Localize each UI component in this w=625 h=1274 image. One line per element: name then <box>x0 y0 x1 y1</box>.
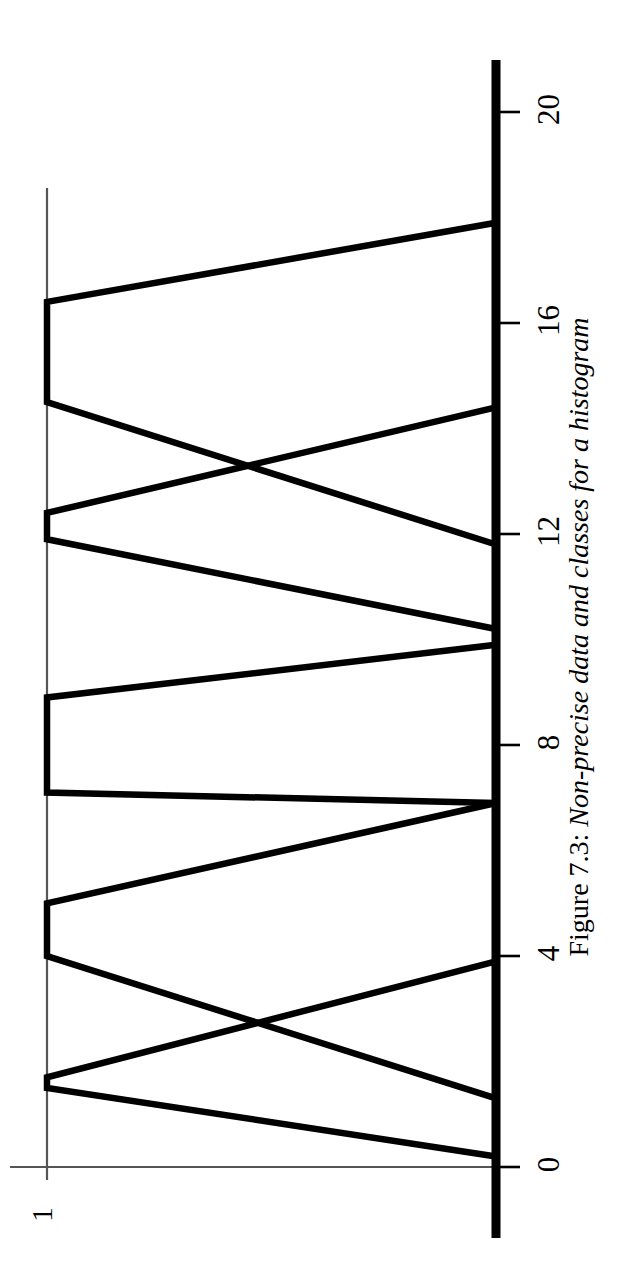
caption-body: Non-precise data and classes for a histo… <box>563 317 594 826</box>
frequency-axis-label: 1 <box>28 1190 57 1240</box>
plot-area: 0 4 8 12 16 20 1 <box>0 0 520 1274</box>
class-2-trapezoid <box>47 803 496 1098</box>
figure-caption: Figure 7.3: Non-precise data and classes… <box>563 317 595 956</box>
class-4-trapezoid <box>47 407 496 629</box>
histogram-classes-plot <box>0 0 520 1274</box>
caption-prefix: Figure 7.3: <box>563 834 594 957</box>
figure-container: 0 4 8 12 16 20 1 Figure 7.3: Non-precise… <box>0 0 625 1274</box>
class-polylines <box>47 223 496 1157</box>
caption-text: Non-precise data and classes for a histo… <box>563 317 594 833</box>
figure-caption-area: Figure 7.3: Non-precise data and classes… <box>533 0 625 1274</box>
class-3-trapezoid <box>47 645 496 803</box>
class-1-trapezoid <box>47 961 496 1156</box>
